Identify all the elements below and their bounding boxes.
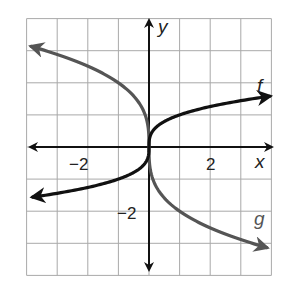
coordinate-plane: y x f g −2 2 −2 xyxy=(0,0,284,286)
y-tick-label-neg2: −2 xyxy=(117,204,136,223)
x-tick-label-2: 2 xyxy=(206,155,215,174)
x-tick-label-neg2: −2 xyxy=(69,155,88,174)
y-axis-label: y xyxy=(156,16,169,37)
curve-f-label: f xyxy=(257,75,264,96)
x-axis-label: x xyxy=(254,151,266,172)
curve-g-label: g xyxy=(254,208,265,229)
